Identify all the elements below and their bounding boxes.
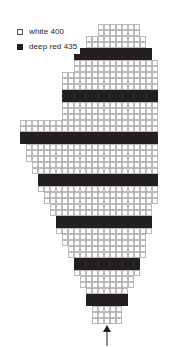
chart-cell (152, 198, 158, 204)
chart-cell (140, 252, 146, 258)
chart-cell (128, 282, 134, 288)
white-swatch-icon (17, 29, 23, 35)
deep-red-swatch-icon (17, 44, 23, 50)
legend: white 400 deep red 435 (17, 25, 77, 55)
chart-cell (146, 228, 152, 234)
chart-cell (122, 300, 128, 306)
legend-item-label: deep red 435 (29, 42, 77, 51)
chart-row (92, 318, 122, 324)
legend-item-white: white 400 (17, 25, 77, 38)
chart-cell (134, 270, 140, 276)
legend-item-label: white 400 (29, 27, 64, 36)
legend-item-deep-red: deep red 435 (17, 40, 77, 53)
chart-cell (116, 318, 122, 324)
start-arrow-icon (100, 325, 114, 347)
